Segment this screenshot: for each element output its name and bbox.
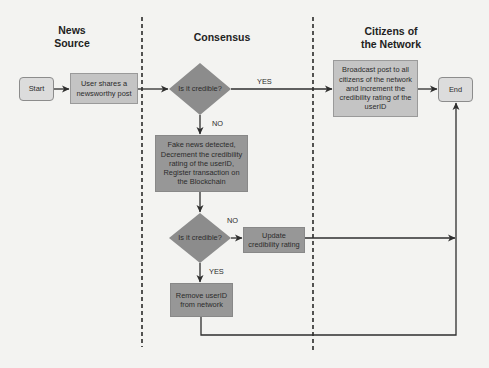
decision1-label: Is it credible? — [169, 84, 231, 93]
start-node: Start — [19, 77, 54, 101]
user-shares-post-node: User shares a newsworthy post — [70, 73, 138, 104]
end-node: End — [438, 77, 473, 102]
update-credibility-node: Update credibility rating — [243, 227, 305, 253]
lane-header-citizens: Citizens of the Network — [351, 25, 431, 50]
remove-userid-node: Remove userID from network — [170, 283, 233, 317]
decision1-no-label: NO — [212, 119, 223, 128]
lane-header-consensus: Consensus — [182, 31, 262, 44]
decision2-yes-label: YES — [209, 267, 224, 276]
decision1-yes-label: YES — [257, 77, 272, 86]
fake-news-detected-node: Fake news detected, Decrement the credib… — [155, 135, 248, 192]
broadcast-post-node: Broadcast post to all citizens of the ne… — [333, 60, 418, 117]
decision2-no-label: NO — [227, 216, 238, 225]
lane-header-news-source: News Source — [42, 24, 102, 49]
decision2-label: Is it credible? — [169, 233, 231, 242]
